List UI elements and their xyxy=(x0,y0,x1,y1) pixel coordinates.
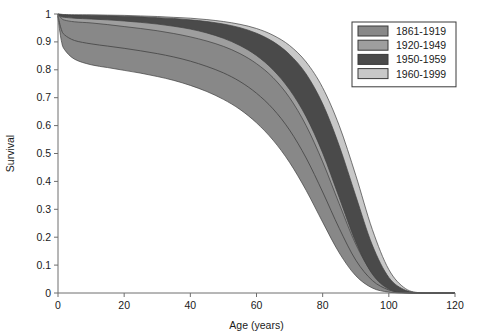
y-axis-title: Survival xyxy=(4,135,16,172)
x-axis-title: Age (years) xyxy=(229,319,283,331)
y-tick-label: 0.5 xyxy=(36,147,51,159)
x-tick-label: 100 xyxy=(380,299,398,311)
y-tick-label: 0.7 xyxy=(36,91,51,103)
legend-label-1920-1949: 1920-1949 xyxy=(396,39,446,51)
chart-canvas: 020406080100120 00.10.20.30.40.50.60.70.… xyxy=(0,0,489,335)
legend-swatch-1920-1949 xyxy=(358,40,388,50)
x-tick-label: 20 xyxy=(118,299,130,311)
y-axis-ticks: 00.10.20.30.40.50.60.70.80.91 xyxy=(36,8,58,299)
x-tick-label: 60 xyxy=(251,299,263,311)
legend-label-1960-1999: 1960-1999 xyxy=(396,68,446,80)
legend-swatch-1861-1919 xyxy=(358,26,388,36)
y-tick-label: 1 xyxy=(45,8,51,20)
y-tick-label: 0.2 xyxy=(36,231,51,243)
x-tick-label: 120 xyxy=(446,299,464,311)
y-tick-label: 0 xyxy=(45,287,51,299)
x-tick-label: 0 xyxy=(55,299,61,311)
survival-chart: 020406080100120 00.10.20.30.40.50.60.70.… xyxy=(0,0,489,335)
x-axis-ticks: 020406080100120 xyxy=(55,293,464,311)
y-tick-label: 0.1 xyxy=(36,259,51,271)
legend: 1861-19191920-19491950-19591960-1999 xyxy=(352,22,456,87)
y-tick-label: 0.8 xyxy=(36,63,51,75)
legend-swatch-1960-1999 xyxy=(358,69,388,79)
y-tick-label: 0.9 xyxy=(36,35,51,47)
legend-label-1950-1959: 1950-1959 xyxy=(396,53,446,65)
x-tick-label: 80 xyxy=(317,299,329,311)
legend-swatch-1950-1959 xyxy=(358,54,388,64)
y-tick-label: 0.6 xyxy=(36,119,51,131)
y-tick-label: 0.3 xyxy=(36,203,51,215)
legend-label-1861-1919: 1861-1919 xyxy=(396,25,446,37)
x-tick-label: 40 xyxy=(184,299,196,311)
y-tick-label: 0.4 xyxy=(36,175,51,187)
